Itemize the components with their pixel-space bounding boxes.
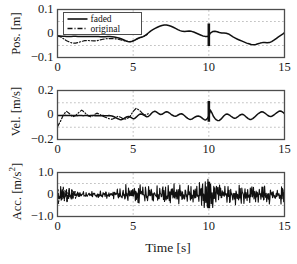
panel-2-ytick: 0 bbox=[47, 107, 53, 122]
panel-3-ylabel: Acc. [m/s2] bbox=[7, 154, 24, 230]
legend: fadedoriginal bbox=[64, 13, 142, 35]
panel-2-ytick: 0.2 bbox=[38, 83, 54, 98]
panel-3-ytick: 1.0 bbox=[38, 165, 54, 180]
x-axis-tick: 5 bbox=[113, 219, 153, 234]
panel-1-ytick: 0 bbox=[47, 26, 53, 41]
x-axis-tick: 15 bbox=[265, 142, 297, 157]
x-axis-tick: 0 bbox=[38, 60, 78, 75]
x-axis-tick: 0 bbox=[38, 219, 78, 234]
panel-2 bbox=[58, 91, 285, 140]
panel-1-ylabel: Pos. [m] bbox=[9, 4, 24, 64]
panel-2-ylabel: Vel. [m/s] bbox=[9, 77, 24, 147]
x-axis-tick: 5 bbox=[113, 60, 153, 75]
x-axis-tick: 15 bbox=[265, 219, 297, 234]
panel-1-ytick: 0.1 bbox=[38, 2, 54, 17]
legend-label-original: original bbox=[91, 24, 121, 34]
x-axis-tick: 10 bbox=[189, 60, 229, 75]
x-axis-tick: 5 bbox=[113, 142, 153, 157]
panel-3 bbox=[58, 173, 285, 217]
x-axis-tick: 10 bbox=[189, 219, 229, 234]
x-axis-tick: 0 bbox=[38, 142, 78, 157]
x-axis-tick: 15 bbox=[265, 60, 297, 75]
legend-label-faded: faded bbox=[91, 14, 112, 24]
panel-3-ytick: 0 bbox=[47, 187, 53, 202]
x-axis-tick: 10 bbox=[189, 142, 229, 157]
x-axis-label: Time [s] bbox=[20, 240, 296, 256]
